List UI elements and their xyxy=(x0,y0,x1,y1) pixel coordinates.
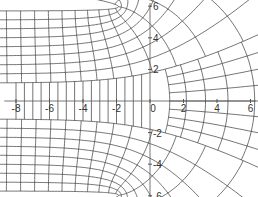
y-tick-label: 2 xyxy=(153,64,159,75)
y-tick-label: -6 xyxy=(153,191,162,197)
mesh-curve-v xyxy=(0,0,119,11)
mesh-curve-u xyxy=(101,0,243,41)
mesh-curve-u xyxy=(35,11,37,83)
y-tick-label: -4 xyxy=(153,159,162,170)
axes xyxy=(4,3,255,197)
x-tick-label: -6 xyxy=(45,103,54,114)
y-tick-label: 4 xyxy=(153,33,159,44)
mesh-curve-u xyxy=(116,8,153,72)
x-tick-label: -8 xyxy=(12,103,21,114)
mesh-curve-u xyxy=(88,122,98,192)
x-tick-label: -4 xyxy=(79,103,88,114)
mesh-curve-v xyxy=(0,146,240,197)
mesh-curve-u xyxy=(62,11,66,82)
x-tick-label: 2 xyxy=(181,103,187,114)
x-tick-label: 6 xyxy=(248,103,254,114)
y-tick-label: -2 xyxy=(153,128,162,139)
mesh-curve-u xyxy=(6,11,7,83)
mesh-curve-u xyxy=(48,11,51,83)
mesh-curve-u xyxy=(48,120,51,192)
mesh-curve-v xyxy=(0,191,119,197)
mesh-curve-v xyxy=(0,0,258,83)
conformal-mesh-plot: -8-6-4-20246642-2-4-6 xyxy=(0,0,258,197)
mesh-lines xyxy=(0,0,258,197)
mesh-curve-u xyxy=(116,130,153,194)
mesh-curve-v xyxy=(0,182,121,197)
mesh-curve-u xyxy=(6,119,7,191)
x-tick-label: 0 xyxy=(150,103,156,114)
mesh-curve-v xyxy=(0,173,128,197)
mesh-curve-u xyxy=(62,120,66,191)
y-tick-label: 6 xyxy=(153,1,159,12)
mesh-curve-v xyxy=(0,0,165,47)
mesh-curve-v xyxy=(0,0,128,29)
mesh-curve-u xyxy=(88,10,98,80)
mesh-curve-u xyxy=(35,120,37,192)
mesh-curve-v xyxy=(0,119,258,197)
mesh-curve-center xyxy=(169,109,258,146)
mesh-curve-v xyxy=(0,0,240,56)
mesh-curve-u xyxy=(75,121,81,192)
mesh-curve-u xyxy=(75,11,81,82)
mesh-curve-center xyxy=(169,56,258,93)
x-tick-label: 4 xyxy=(214,103,220,114)
x-tick-label: -2 xyxy=(112,103,121,114)
mesh-curve-u xyxy=(115,0,206,56)
